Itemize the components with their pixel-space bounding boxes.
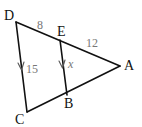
point-label-E: E [57, 24, 66, 39]
segment-EB [60, 40, 67, 95]
length-label-EA: 12 [86, 36, 98, 50]
point-label-D: D [4, 8, 14, 23]
similar-triangles-diagram: D E A B C 8 12 15 x [0, 0, 142, 127]
point-label-A: A [124, 58, 135, 73]
length-label-DC: 15 [26, 62, 38, 76]
length-label-EB: x [67, 57, 74, 71]
point-label-C: C [15, 112, 24, 127]
length-label-DE: 8 [37, 18, 43, 32]
segment-AC [27, 66, 120, 112]
point-label-B: B [64, 96, 73, 111]
